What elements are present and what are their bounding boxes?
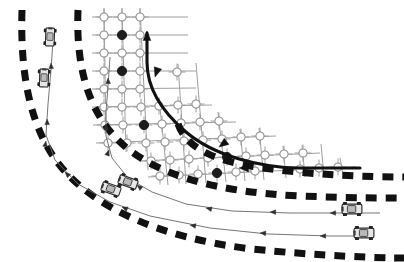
vehicle-icon[interactable] (353, 226, 373, 240)
road-scenario-canvas (0, 0, 404, 262)
vehicle-icon[interactable] (341, 202, 361, 216)
vehicle-icon[interactable] (43, 27, 56, 46)
vehicle-icon[interactable] (37, 68, 50, 87)
figure-root: Curved road scenario with occupancy grid… (0, 0, 404, 262)
